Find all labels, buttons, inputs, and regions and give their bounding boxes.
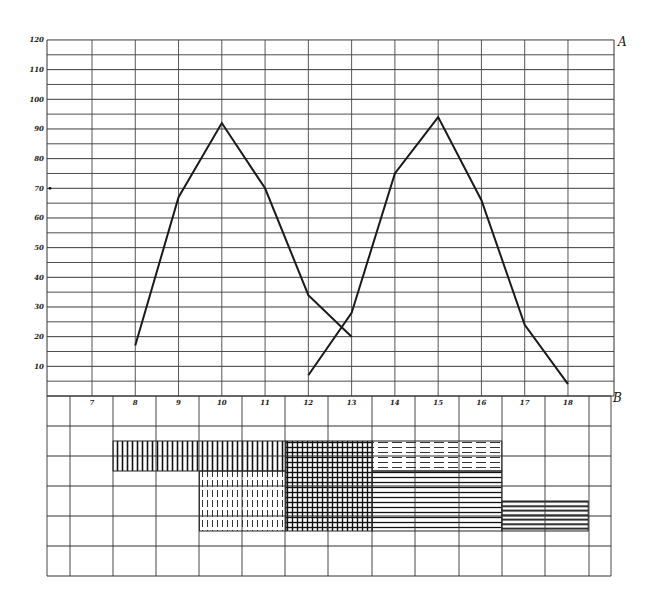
marker-dot-70: [49, 187, 52, 190]
panel-a-line-chart: 102030405060708090100110120 789101112131…: [29, 35, 627, 407]
y-tick-label: 120: [29, 35, 44, 44]
y-tick-label: 50: [34, 243, 44, 252]
chart-figure: 102030405060708090100110120 789101112131…: [0, 0, 649, 614]
x-tick-label: 17: [520, 398, 530, 407]
hatched-block-horizontal-lines: [372, 471, 502, 531]
y-tick-label: 110: [29, 65, 44, 74]
y-tick-label: 60: [34, 213, 44, 222]
x-tick-label: 14: [390, 398, 400, 407]
x-tick-label: 9: [176, 398, 181, 407]
x-tick-label: 11: [260, 398, 270, 407]
panel-b-hatched-blocks: B: [47, 391, 622, 576]
x-tick-label: 12: [303, 398, 313, 407]
x-tick-label: 15: [433, 398, 443, 407]
y-tick-label: 80: [34, 154, 44, 163]
panel-b-grid: [47, 396, 611, 576]
x-tick-label: 13: [347, 398, 357, 407]
panel-a-label: A: [617, 35, 627, 49]
y-tick-label: 90: [34, 124, 44, 133]
x-tick-label: 18: [563, 398, 573, 407]
y-axis-labels: 102030405060708090100110120: [29, 35, 44, 370]
panel-b-label: B: [612, 391, 622, 405]
x-tick-label: 8: [133, 398, 138, 407]
x-tick-label: 10: [217, 398, 227, 407]
y-tick-label: 40: [34, 273, 44, 282]
x-tick-label: 16: [477, 398, 487, 407]
hatched-block-dashed-vertical-lines: [199, 471, 285, 531]
y-tick-label: 20: [33, 332, 44, 341]
y-tick-label: 70: [34, 184, 44, 193]
y-tick-label: 30: [34, 302, 44, 311]
y-tick-label: 10: [34, 362, 44, 371]
x-tick-label: 7: [90, 398, 95, 407]
x-axis-labels: 789101112131415161718: [90, 398, 573, 407]
series-line: [135, 123, 351, 346]
y-tick-label: 100: [29, 95, 44, 104]
